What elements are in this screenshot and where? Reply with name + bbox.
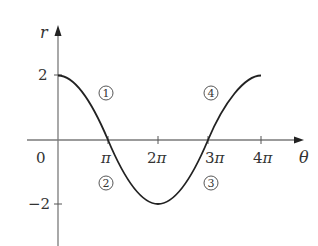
x-tick-2pi-num: 2 [147,149,157,167]
region-marker-4: 4 [204,86,218,100]
region-marker-1: 1 [99,86,113,100]
x-axis-arrow-icon [294,137,304,144]
x-tick-label-4pi: 4π [253,149,274,167]
region-marker-3: 3 [204,176,218,190]
region-4-label: 4 [208,87,215,100]
x-tick-label-pi: π [100,149,112,167]
y-axis-arrow-icon [55,25,62,36]
x-tick-label-3pi: 3π [205,149,226,167]
x-tick-4pi-num: 4 [253,149,263,167]
axes [27,25,304,246]
x-tick-4pi-pi: π [262,149,274,167]
x-tick-label-2pi: 2π [147,149,168,167]
region-marker-2: 2 [99,176,113,190]
x-axis-label: θ [299,148,309,167]
y-axis-label: r [40,23,49,42]
origin-label: 0 [36,149,46,167]
y-tick-label-neg2: −2 [28,195,50,213]
region-2-label: 2 [103,177,110,190]
x-tick-2pi-pi: π [156,149,168,167]
x-tick-3pi-pi: π [214,149,226,167]
x-tick-3pi-num: 3 [205,149,215,167]
polar-cosine-graph: r θ 0 π 2π 3π 4π 2 −2 1 4 2 3 [0,0,318,246]
y-tick-label-2: 2 [38,66,48,84]
region-1-label: 1 [103,87,110,100]
region-3-label: 3 [208,177,215,190]
